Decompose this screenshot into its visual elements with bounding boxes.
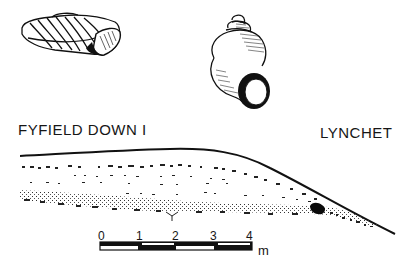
scale-unit: m (258, 243, 269, 258)
scale-bar (0, 0, 413, 260)
